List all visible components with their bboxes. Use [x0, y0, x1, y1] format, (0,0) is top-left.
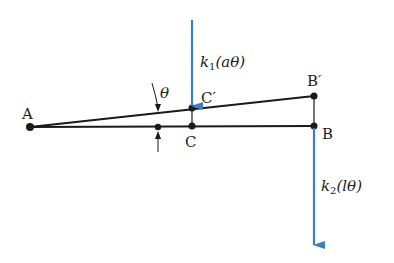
label-c: C [185, 133, 196, 151]
force-label-k2: k2(lθ) [321, 177, 362, 196]
node-c [189, 123, 196, 130]
node-b-prime [311, 93, 318, 100]
label-b: B [322, 125, 333, 143]
label-c-prime: C′ [201, 89, 216, 107]
force-label-k1: k1(aθ) [200, 53, 245, 72]
bar-undeformed [30, 126, 314, 127]
label-b-prime: B′ [307, 72, 322, 90]
angle-label: θ [160, 84, 169, 102]
rigid-bar-diagram: θ A C C′ B B′ k1(aθ) k2(lθ) [0, 0, 394, 263]
node-a [26, 123, 34, 131]
bar-rotated [30, 96, 314, 127]
label-a: A [21, 105, 33, 123]
